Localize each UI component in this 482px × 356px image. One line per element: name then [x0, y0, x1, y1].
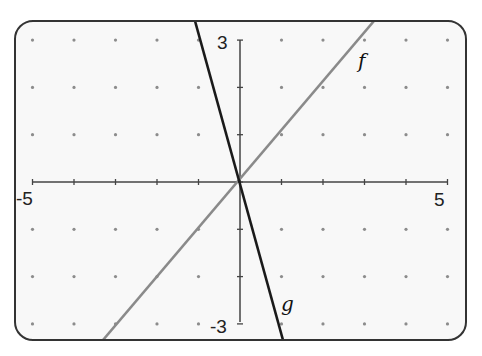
grid-dot — [321, 86, 324, 89]
grid-dot — [197, 133, 200, 136]
grid-dot — [31, 133, 34, 136]
grid-dot — [72, 322, 75, 325]
grid-dot — [404, 322, 407, 325]
coordinate-graph: -5 5 3 -3 f g — [0, 0, 482, 356]
grid-dot — [446, 86, 449, 89]
grid-dot — [114, 133, 117, 136]
grid-dot — [321, 39, 324, 42]
grid-dot — [31, 39, 34, 42]
grid-dot — [446, 133, 449, 136]
grid-dot — [363, 228, 366, 231]
y-max-label: 3 — [217, 32, 228, 53]
grid-dot — [363, 275, 366, 278]
grid-dot — [363, 86, 366, 89]
grid-dot — [114, 275, 117, 278]
grid-dot — [31, 228, 34, 231]
grid-dot — [446, 275, 449, 278]
grid-dot — [155, 86, 158, 89]
grid-dot — [114, 39, 117, 42]
grid-dot — [155, 133, 158, 136]
grid-dot — [72, 39, 75, 42]
grid-dot — [363, 322, 366, 325]
grid-dot — [404, 86, 407, 89]
grid-dot — [31, 275, 34, 278]
grid-dot — [321, 228, 324, 231]
grid-dot — [280, 86, 283, 89]
y-min-label: -3 — [210, 316, 227, 337]
x-min-label: -5 — [16, 188, 33, 209]
grid-dot — [72, 133, 75, 136]
grid-dot — [446, 39, 449, 42]
grid-dot — [404, 228, 407, 231]
grid-dot — [155, 228, 158, 231]
grid-dot — [72, 86, 75, 89]
grid-dot — [363, 39, 366, 42]
grid-dot — [72, 228, 75, 231]
grid-dot — [114, 228, 117, 231]
grid-dot — [404, 39, 407, 42]
grid-dot — [446, 228, 449, 231]
grid-dot — [280, 39, 283, 42]
grid-dot — [280, 275, 283, 278]
grid-dot — [31, 322, 34, 325]
label-g: g — [281, 292, 294, 316]
grid-dot — [321, 322, 324, 325]
grid-dot — [197, 86, 200, 89]
grid-dot — [280, 228, 283, 231]
grid-dot — [321, 275, 324, 278]
grid-dot — [321, 133, 324, 136]
grid-dot — [155, 322, 158, 325]
grid-dot — [197, 275, 200, 278]
grid-dot — [114, 86, 117, 89]
grid-dot — [197, 322, 200, 325]
grid-dot — [72, 275, 75, 278]
x-max-label: 5 — [434, 189, 445, 210]
grid-dot — [280, 322, 283, 325]
grid-dot — [155, 39, 158, 42]
grid-dot — [404, 275, 407, 278]
grid-dot — [31, 86, 34, 89]
grid-dot — [446, 322, 449, 325]
grid-dot — [404, 133, 407, 136]
grid-dot — [280, 133, 283, 136]
grid-dot — [363, 133, 366, 136]
